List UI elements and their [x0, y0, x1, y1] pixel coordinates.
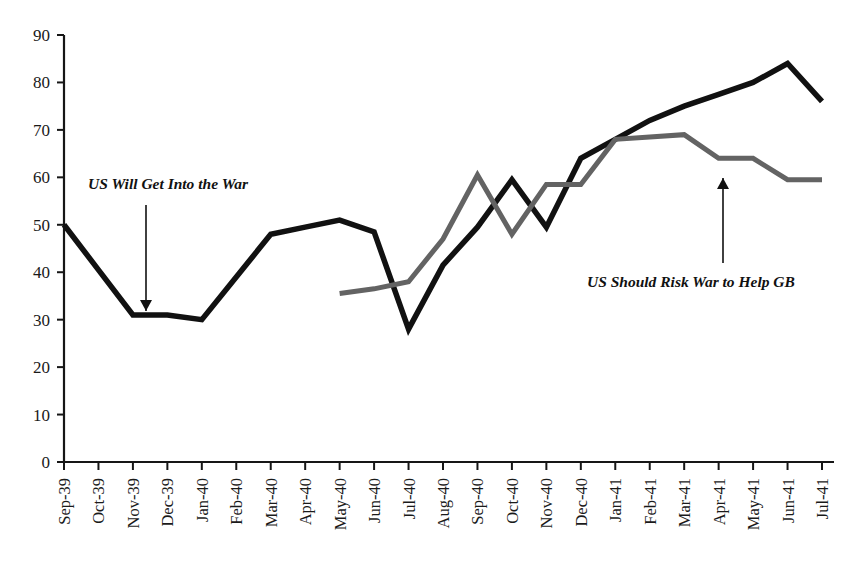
x-tick-label: Jul-40	[400, 478, 419, 519]
arrow-head	[717, 178, 729, 189]
x-tick-label: Jan-41	[606, 478, 625, 522]
y-tick-label: 10	[33, 406, 50, 425]
y-tick-label: 30	[33, 311, 50, 330]
x-tick-label: Mar-40	[262, 478, 281, 527]
y-axis-ticks: 0102030405060708090	[33, 26, 64, 472]
y-tick-label: 60	[33, 168, 50, 187]
x-tick-label: Jun-41	[779, 478, 798, 523]
x-tick-label: Dec-40	[572, 478, 591, 527]
annotation-label-2: US Should Risk War to Help GB	[587, 273, 795, 290]
x-tick-label: Apr-40	[296, 478, 315, 525]
x-tick-label: Mar-41	[675, 478, 694, 527]
y-tick-label: 70	[33, 121, 50, 140]
arrow-head	[140, 300, 152, 311]
x-tick-label: Oct-40	[503, 478, 522, 524]
x-tick-label: Jul-41	[813, 478, 832, 519]
y-tick-label: 80	[33, 73, 50, 92]
x-tick-label: May-40	[331, 478, 350, 530]
x-tick-label: Sep-40	[468, 478, 487, 525]
annotation-arrow	[717, 178, 729, 263]
annotation-label-1: US Will Get Into the War	[88, 175, 249, 192]
x-tick-label: Jun-40	[365, 478, 384, 523]
x-tick-label: Nov-40	[537, 478, 556, 528]
x-tick-label: Aug-40	[434, 478, 453, 528]
x-tick-label: Sep-39	[55, 478, 74, 525]
annotation-arrow	[140, 205, 152, 311]
y-tick-label: 40	[33, 263, 50, 282]
y-tick-label: 50	[33, 216, 50, 235]
x-tick-label: Dec-39	[158, 478, 177, 527]
x-tick-label: Feb-40	[227, 478, 246, 525]
chart-container: 0102030405060708090 Sep-39Oct-39Nov-39De…	[0, 0, 852, 561]
x-tick-label: Jan-40	[193, 478, 212, 522]
y-tick-label: 20	[33, 358, 50, 377]
x-tick-label: Oct-39	[89, 478, 108, 524]
x-tick-label: Nov-39	[124, 478, 143, 528]
y-tick-label: 0	[42, 453, 51, 472]
x-axis-ticks: Sep-39Oct-39Nov-39Dec-39Jan-40Feb-40Mar-…	[55, 462, 832, 530]
y-tick-label: 90	[33, 26, 50, 45]
x-tick-label: May-41	[744, 478, 763, 530]
x-tick-label: Feb-41	[641, 478, 660, 525]
line-chart: 0102030405060708090 Sep-39Oct-39Nov-39De…	[0, 0, 852, 561]
x-tick-label: Apr-41	[710, 478, 729, 525]
